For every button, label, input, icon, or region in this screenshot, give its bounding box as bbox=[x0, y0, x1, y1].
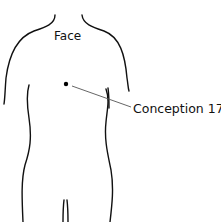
body-diagram: Face Conception 17 bbox=[0, 0, 221, 222]
left-torso-side bbox=[22, 85, 30, 222]
face-label: Face bbox=[54, 29, 81, 43]
leader-line bbox=[72, 86, 131, 107]
right-torso-side bbox=[105, 89, 112, 222]
acupoint-dot bbox=[64, 82, 68, 86]
point-label: Conception 17 bbox=[133, 101, 221, 116]
left-neck-shoulder bbox=[4, 15, 55, 104]
right-neck-shoulder bbox=[82, 15, 129, 91]
right-leg-inner bbox=[67, 200, 68, 222]
left-leg-inner bbox=[63, 200, 64, 222]
